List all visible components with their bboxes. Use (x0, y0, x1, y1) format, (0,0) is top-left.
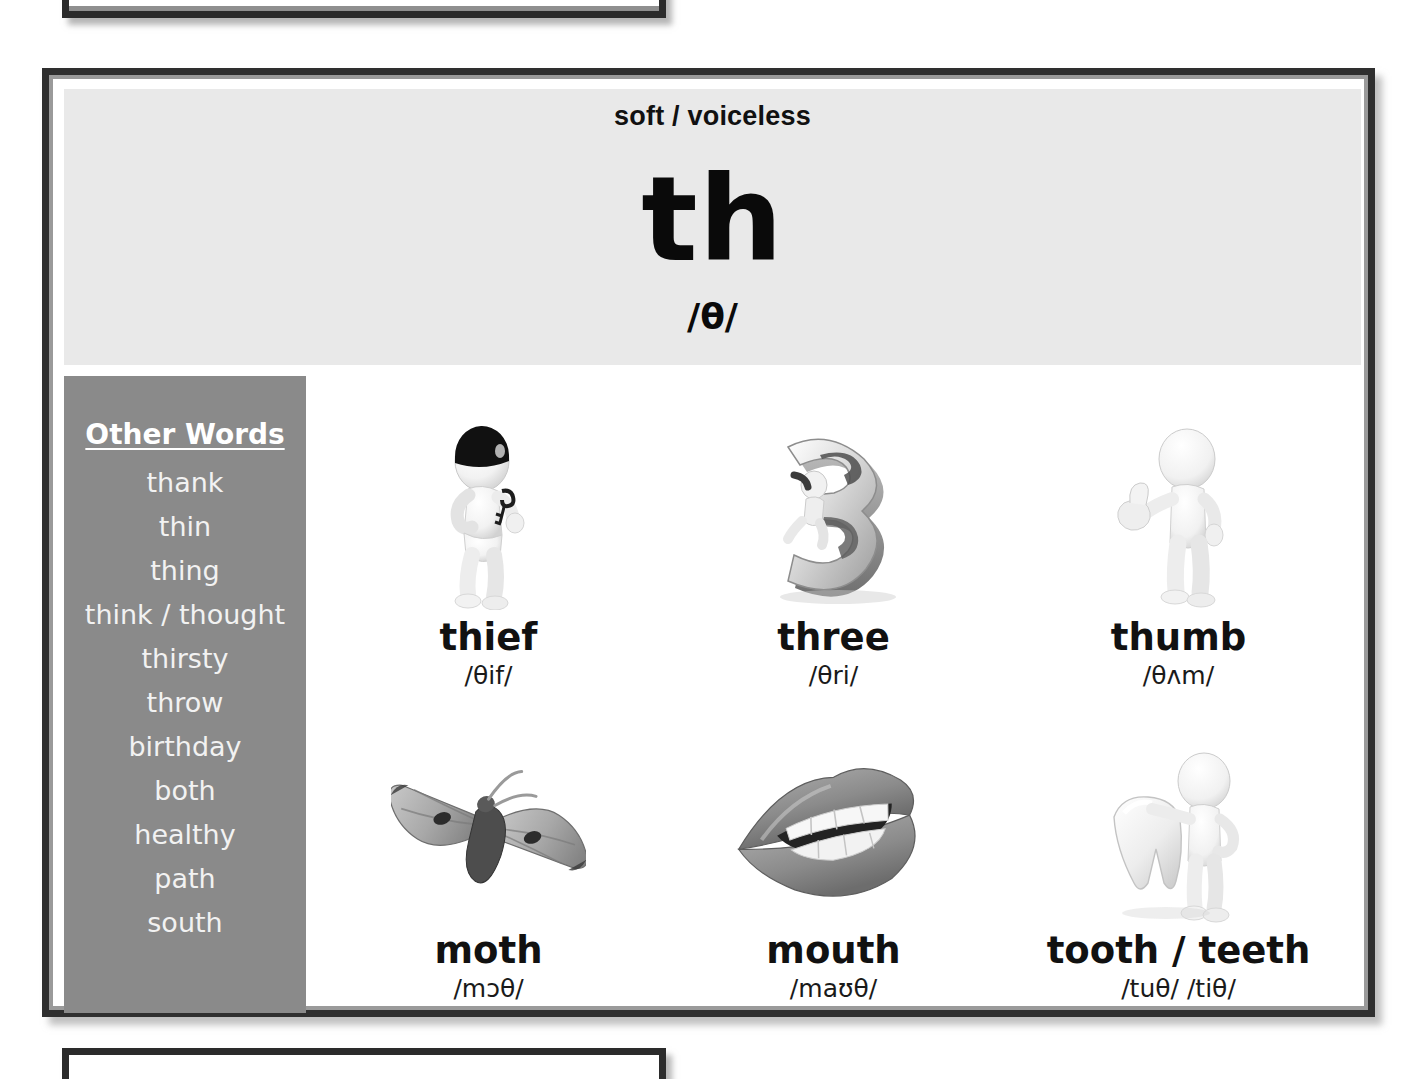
tooth-with-figure-image (1086, 731, 1271, 923)
voicing-label: soft / voiceless (614, 101, 811, 132)
word-cell-three[interactable]: three /θri/ (661, 380, 1006, 694)
slide-header: soft / voiceless th /θ/ (64, 89, 1361, 365)
previous-slide-partial[interactable] (62, 0, 666, 18)
list-item: path (64, 857, 306, 901)
card-inner-border: soft / voiceless th /θ/ Other Words than… (49, 75, 1368, 1010)
word-cell-tooth-teeth[interactable]: tooth / teeth /tuθ/ /tiθ/ (1006, 694, 1351, 1008)
word-label: tooth / teeth (1047, 929, 1311, 972)
list-item: think / thought (64, 593, 306, 637)
th-sound-slide-card[interactable]: soft / voiceless th /θ/ Other Words than… (42, 68, 1375, 1017)
word-label: moth (434, 929, 542, 972)
word-cell-mouth[interactable]: mouth /maʊθ/ (661, 694, 1006, 1008)
mouth-lips-image (726, 731, 941, 923)
slide-body: Other Words thank thin thing think / tho… (64, 376, 1361, 1013)
grapheme-th: th (641, 158, 783, 282)
slide-page: soft / voiceless th /θ/ Other Words than… (0, 0, 1417, 1079)
word-label: mouth (766, 929, 900, 972)
list-item: thirsty (64, 637, 306, 681)
list-item: healthy (64, 813, 306, 857)
phoneme-ipa: /θ/ (687, 296, 738, 337)
word-ipa: /tuθ/ /tiθ/ (1121, 974, 1236, 1003)
list-item: thing (64, 549, 306, 593)
word-ipa: /θri/ (809, 661, 858, 690)
word-ipa: /θif/ (465, 661, 513, 690)
thumbs-up-figure-image (1104, 418, 1254, 610)
list-item: both (64, 769, 306, 813)
word-ipa: /θʌm/ (1143, 661, 1214, 690)
word-label: thief (440, 616, 538, 659)
word-label: thumb (1111, 616, 1246, 659)
word-cell-moth[interactable]: moth /mɔθ/ (316, 694, 661, 1008)
word-label: three (777, 616, 889, 659)
thief-figure-with-key-image (414, 418, 564, 610)
number-three-3d-image (754, 418, 914, 610)
other-words-heading-wrap: Other Words (64, 418, 306, 461)
other-words-title: Other Words (85, 418, 284, 451)
other-words-sidebar: Other Words thank thin thing think / tho… (64, 376, 306, 1013)
list-item: south (64, 901, 306, 945)
next-slide-partial[interactable] (62, 1048, 666, 1079)
moth-image (391, 731, 586, 923)
word-picture-grid: thief /θif/ (306, 376, 1361, 1013)
other-words-list: thank thin thing think / thought thirsty… (64, 461, 306, 945)
list-item: thank (64, 461, 306, 505)
word-cell-thumb[interactable]: thumb /θʌm/ (1006, 380, 1351, 694)
list-item: thin (64, 505, 306, 549)
word-ipa: /maʊθ/ (790, 974, 877, 1003)
list-item: birthday (64, 725, 306, 769)
word-cell-thief[interactable]: thief /θif/ (316, 380, 661, 694)
word-ipa: /mɔθ/ (453, 974, 523, 1003)
list-item: throw (64, 681, 306, 725)
